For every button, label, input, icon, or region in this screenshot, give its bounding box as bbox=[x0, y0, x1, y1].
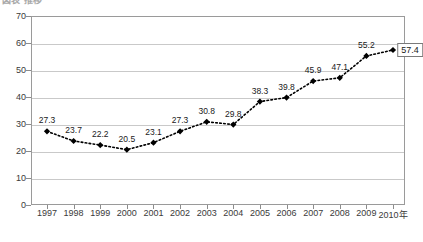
x-tick-mark bbox=[366, 205, 367, 209]
x-tick-mark bbox=[340, 205, 341, 209]
x-tick-mark bbox=[313, 205, 314, 209]
x-tick-label: 2005 bbox=[250, 208, 270, 218]
data-label: 38.3 bbox=[252, 86, 269, 96]
x-tick-mark bbox=[180, 205, 181, 209]
x-tick-label: 2004 bbox=[223, 208, 243, 218]
data-label: 27.3 bbox=[172, 115, 189, 125]
x-tick-mark bbox=[260, 205, 261, 209]
x-tick-mark bbox=[287, 205, 288, 209]
x-tick-mark bbox=[153, 205, 154, 209]
x-tick-label: 2002 bbox=[170, 208, 190, 218]
x-tick-mark bbox=[393, 205, 394, 209]
x-tick-mark bbox=[127, 205, 128, 209]
data-label-highlighted: 57.4 bbox=[397, 43, 423, 57]
data-label: 22.2 bbox=[92, 129, 109, 139]
x-axis: 1997199819992000200120022003200420052006… bbox=[0, 0, 423, 242]
data-label: 20.5 bbox=[119, 134, 136, 144]
x-tick-label: 1998 bbox=[64, 208, 84, 218]
data-label: 45.9 bbox=[305, 65, 322, 75]
x-tick-mark bbox=[47, 205, 48, 209]
x-tick-label: 1999 bbox=[90, 208, 110, 218]
x-tick-label: 1997 bbox=[37, 208, 57, 218]
x-tick-label: 2009 bbox=[356, 208, 376, 218]
x-tick-label: 2007 bbox=[303, 208, 323, 218]
x-tick-label: 2008 bbox=[330, 208, 350, 218]
data-label: 23.7 bbox=[65, 125, 82, 135]
x-tick-mark bbox=[100, 205, 101, 209]
data-label: 29.8 bbox=[225, 109, 242, 119]
x-tick-label: 2001 bbox=[143, 208, 163, 218]
data-label: 55.2 bbox=[358, 40, 375, 50]
x-tick-mark bbox=[207, 205, 208, 209]
data-label: 27.3 bbox=[39, 115, 56, 125]
x-tick-mark bbox=[233, 205, 234, 209]
data-label: 23.1 bbox=[145, 127, 162, 137]
data-label: 47.1 bbox=[331, 62, 348, 72]
x-tick-label: 2010年 bbox=[378, 208, 407, 221]
data-label: 39.8 bbox=[278, 82, 295, 92]
x-tick-mark bbox=[74, 205, 75, 209]
x-tick-label: 2000 bbox=[117, 208, 137, 218]
x-tick-label: 2006 bbox=[277, 208, 297, 218]
data-label: 30.8 bbox=[198, 106, 215, 116]
x-tick-label: 2003 bbox=[197, 208, 217, 218]
